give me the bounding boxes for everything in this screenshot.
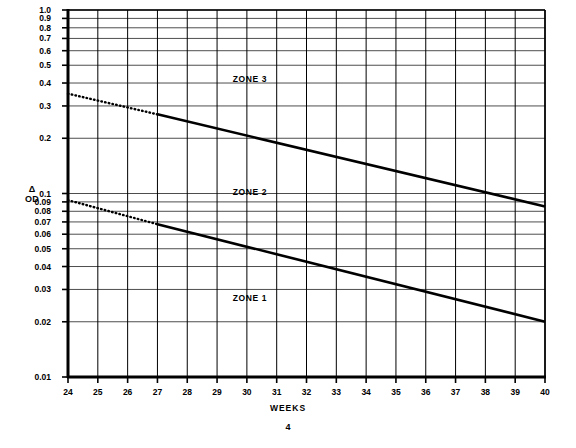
x-tick-label: 30 [242,388,251,397]
x-tick-label: 25 [93,388,102,397]
x-tick-label: 28 [183,388,192,397]
x-tick-label: 38 [481,388,490,397]
page-number: 4 [0,422,576,432]
zone-label-3: ZONE 1 [233,293,267,303]
zone-label-1: ZONE 3 [233,74,267,84]
x-tick-label: 33 [332,388,341,397]
x-tick-label: 26 [123,388,132,397]
x-tick-label: 37 [451,388,460,397]
x-axis-title: WEEKS [0,403,576,413]
x-tick-label: 39 [510,388,519,397]
x-tick-label: 34 [361,388,370,397]
liley-chart-figure: Δ OD 0.010.020.030.040.050.060.070.080.0… [0,0,576,448]
zone-label-2: ZONE 2 [233,187,267,197]
x-tick-label: 31 [272,388,281,397]
x-tick-label: 32 [302,388,311,397]
x-tick-label: 27 [153,388,162,397]
x-tick-label: 40 [540,388,549,397]
x-tick-label: 36 [421,388,430,397]
x-axis-tick-labels: 2425262728293031323334353637383940 [0,0,576,448]
x-tick-label: 29 [212,388,221,397]
x-tick-label: 24 [63,388,72,397]
x-tick-label: 35 [391,388,400,397]
